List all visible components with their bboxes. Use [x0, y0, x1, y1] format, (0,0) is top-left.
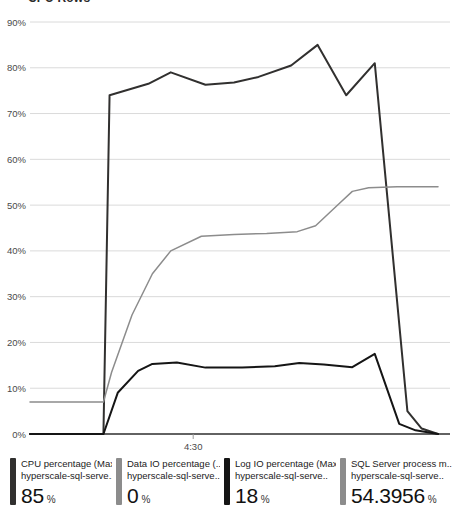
- line-chart: 0%10%20%30%40%50%60%70%80%90% 4:30: [0, 11, 450, 451]
- legend-unit: %: [47, 494, 56, 505]
- page-title: CPU Rows: [28, 0, 90, 5]
- legend-item[interactable]: CPU percentage (Max)hyperscale-sql-serve…: [10, 458, 116, 510]
- legend-item[interactable]: Log IO percentage (Max)hyperscale-sql-se…: [224, 458, 340, 510]
- legend-value: 85: [21, 485, 44, 507]
- legend-value-row: 85%: [21, 485, 112, 507]
- y-axis-tick-label: 50%: [7, 200, 27, 211]
- legend-metric-name: CPU percentage (Max): [21, 458, 112, 470]
- series-line: [30, 354, 438, 434]
- x-axis-tick-label: 4:30: [184, 441, 203, 451]
- legend-item[interactable]: Data IO percentage (..hyperscale-sql-ser…: [116, 458, 224, 510]
- legend-resource-name: hyperscale-sql-serve..: [127, 470, 220, 482]
- y-axis-tick-label: 0%: [12, 429, 26, 440]
- y-axis-tick-label: 10%: [7, 383, 27, 394]
- series-line: [30, 45, 438, 434]
- legend-item[interactable]: SQL Server process m..hyperscale-sql-ser…: [340, 458, 456, 510]
- legend-resource-name: hyperscale-sql-serve..: [235, 470, 336, 482]
- y-axis-tick-label: 70%: [7, 108, 27, 119]
- y-axis-tick-label: 60%: [7, 154, 27, 165]
- legend-value-row: 0%: [127, 485, 220, 507]
- legend-metric-name: Data IO percentage (..: [127, 458, 220, 470]
- legend-value-row: 54.3956%: [351, 485, 452, 507]
- series-line: [30, 187, 438, 402]
- y-axis-tick-label: 40%: [7, 245, 27, 256]
- legend-color-swatch: [116, 458, 122, 505]
- legend-resource-name: hyperscale-sql-serve..: [21, 470, 112, 482]
- y-axis-tick-label: 80%: [7, 62, 27, 73]
- y-axis-tick-label: 20%: [7, 337, 27, 348]
- legend-unit: %: [428, 494, 437, 505]
- legend-value-row: 18%: [235, 485, 336, 507]
- legend-value: 54.3956: [351, 485, 425, 507]
- legend-value: 18: [235, 485, 258, 507]
- series-layer: [30, 45, 438, 434]
- legend-color-swatch: [340, 458, 346, 505]
- legend-metric-name: SQL Server process m..: [351, 458, 452, 470]
- gridlines: [30, 22, 450, 434]
- legend-unit: %: [261, 494, 270, 505]
- legend-metric-name: Log IO percentage (Max): [235, 458, 336, 470]
- legend-resource-name: hyperscale-sql-serve..: [351, 470, 452, 482]
- y-axis-tick-label: 90%: [7, 17, 27, 28]
- y-axis-tick-label: 30%: [7, 291, 27, 302]
- legend-value: 0: [127, 485, 138, 507]
- chart-legend: CPU percentage (Max)hyperscale-sql-serve…: [10, 458, 442, 510]
- x-axis: 4:30: [184, 434, 203, 451]
- cropped-title-strip: CPU Rows: [0, 0, 450, 11]
- y-axis-labels: 0%10%20%30%40%50%60%70%80%90%: [7, 17, 27, 440]
- legend-unit: %: [141, 494, 150, 505]
- legend-color-swatch: [10, 458, 16, 505]
- legend-color-swatch: [224, 458, 230, 505]
- plot-area: 0%10%20%30%40%50%60%70%80%90% 4:30: [0, 11, 450, 451]
